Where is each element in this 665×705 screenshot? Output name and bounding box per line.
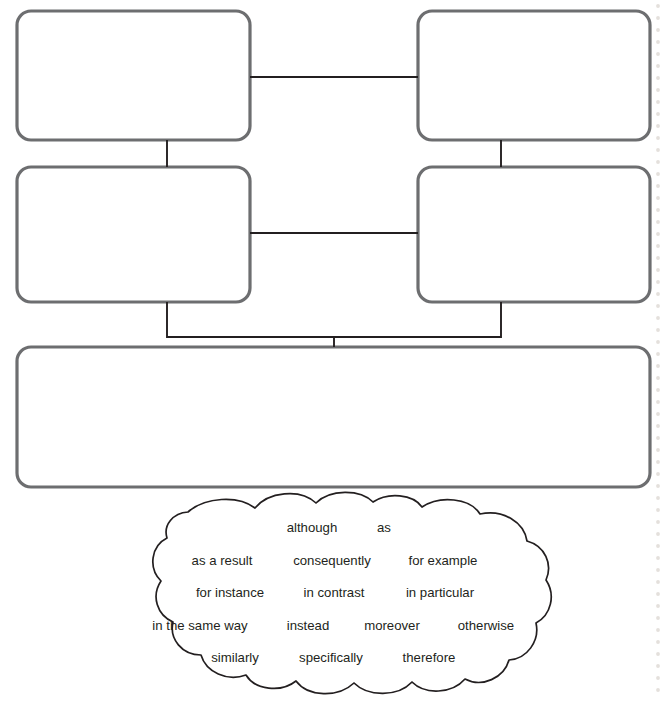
box-top-left[interactable] [17, 11, 250, 140]
binding-dot [656, 232, 660, 236]
transition-word[interactable]: as a result [192, 553, 253, 568]
binding-dot [656, 652, 660, 656]
transition-word[interactable]: consequently [293, 553, 371, 568]
binding-dot [656, 148, 660, 152]
binding-dot [656, 40, 660, 44]
organizer-svg: althoughasas a resultconsequentlyfor exa… [0, 0, 665, 705]
transition-word[interactable]: in the same way [152, 618, 248, 633]
binding-dot [656, 136, 660, 140]
binding-dot [656, 244, 660, 248]
binding-dot [656, 688, 660, 692]
binding-dot [656, 364, 660, 368]
transition-word[interactable]: in contrast [304, 585, 365, 600]
binding-dot [656, 676, 660, 680]
transition-word[interactable]: for instance [196, 585, 264, 600]
binding-dot [656, 28, 660, 32]
binding-dot [656, 400, 660, 404]
transition-word[interactable]: otherwise [458, 618, 514, 633]
binding-dot [656, 304, 660, 308]
binding-dot [656, 424, 660, 428]
worksheet-canvas: althoughasas a resultconsequentlyfor exa… [0, 0, 665, 705]
binding-dot [656, 16, 660, 20]
binding-dot [656, 76, 660, 80]
binding-dot [656, 328, 660, 332]
binding-dot [656, 172, 660, 176]
binding-dot [656, 100, 660, 104]
binding-dot [656, 580, 660, 584]
transition-word[interactable]: specifically [299, 650, 363, 665]
binding-dot [656, 376, 660, 380]
binding-dot [656, 340, 660, 344]
binding-dot [656, 628, 660, 632]
binding-dot [656, 448, 660, 452]
binding-dot [656, 292, 660, 296]
transition-word[interactable]: although [287, 520, 338, 535]
binding-dot [656, 568, 660, 572]
binding-dot [656, 616, 660, 620]
box-mid-left[interactable] [17, 167, 250, 302]
organizer-boxes [17, 11, 650, 487]
binding-dot [656, 112, 660, 116]
binding-dot [656, 64, 660, 68]
binding-dot [656, 532, 660, 536]
box-top-right[interactable] [418, 11, 650, 140]
binding-dot [656, 484, 660, 488]
transition-word[interactable]: in particular [406, 585, 475, 600]
transition-word[interactable]: instead [287, 618, 330, 633]
binding-dot [656, 604, 660, 608]
binding-dot [656, 268, 660, 272]
binding-dot [656, 640, 660, 644]
binding-dot [656, 220, 660, 224]
connector-merge-to-bottom [167, 302, 501, 337]
binding-dot [656, 412, 660, 416]
binding-dot [656, 496, 660, 500]
spiral-binding-dots [656, 4, 660, 692]
binding-dot [656, 88, 660, 92]
binding-dot [656, 124, 660, 128]
binding-dot [656, 352, 660, 356]
transition-word[interactable]: as [377, 520, 391, 535]
binding-dot [656, 460, 660, 464]
binding-dot [656, 436, 660, 440]
binding-dot [656, 184, 660, 188]
binding-dot [656, 664, 660, 668]
box-bottom[interactable] [17, 347, 650, 487]
binding-dot [656, 388, 660, 392]
binding-dot [656, 52, 660, 56]
binding-dot [656, 160, 660, 164]
binding-dot [656, 544, 660, 548]
binding-dot [656, 592, 660, 596]
binding-dot [656, 256, 660, 260]
binding-dot [656, 472, 660, 476]
binding-dot [656, 316, 660, 320]
transition-word[interactable]: similarly [211, 650, 259, 665]
transition-word[interactable]: therefore [403, 650, 456, 665]
binding-dot [656, 280, 660, 284]
binding-dot [656, 196, 660, 200]
transition-word[interactable]: for example [409, 553, 478, 568]
binding-dot [656, 520, 660, 524]
binding-dot [656, 208, 660, 212]
binding-dot [656, 556, 660, 560]
transition-word[interactable]: moreover [364, 618, 420, 633]
binding-dot [656, 508, 660, 512]
binding-dot [656, 4, 660, 8]
box-mid-right[interactable] [418, 167, 650, 302]
